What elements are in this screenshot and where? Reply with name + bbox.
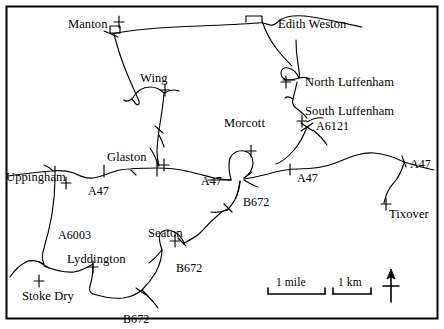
settlement-label-morcott: Morcott: [224, 117, 265, 130]
church-marker-stoke-dry: [34, 275, 44, 287]
road-label-a47-tixover: A47: [410, 158, 431, 170]
road-manton-edithweston: [112, 23, 258, 34]
road-glaston-north-tick: [159, 135, 164, 147]
settlement-label-uppingham: Uppingham: [6, 171, 66, 184]
settlement-label-edith-weston: Edith Weston: [278, 18, 346, 31]
road-south-luffenham-spur: [285, 97, 293, 99]
settlement-label-seaton: Seaton: [148, 227, 183, 240]
settlement-label-manton: Manton: [68, 18, 108, 31]
road-a6003: [43, 178, 56, 264]
settlement-label-lyddington: Lyddington: [67, 253, 126, 266]
settlement-label-tixover: Tixover: [389, 208, 429, 221]
road-seaton-b672-north: [184, 209, 228, 243]
settlement-label-stoke-dry: Stoke Dry: [22, 290, 74, 303]
road-b672-southeast: [142, 290, 158, 308]
road-a6121-south: [296, 40, 299, 78]
church-marker-morcott: [246, 145, 256, 157]
village-block-edith-weston: [246, 16, 262, 22]
map-figure: Manton Edith Weston Wing North Luffenham…: [0, 0, 444, 329]
scale-label-mile: 1 mile: [276, 277, 306, 289]
road-b672-morcott: [228, 181, 240, 209]
road-label-a47-morcott-east: A47: [297, 172, 318, 184]
road-morcott-junction-tick: [244, 172, 252, 178]
road-north-luffenham-loop: [281, 68, 299, 80]
road-morcott-loop: [229, 151, 253, 180]
road-morcott-east-spur: [244, 180, 258, 187]
road-a6121-to-morcott: [276, 127, 307, 164]
scale-bar-km: [333, 288, 371, 294]
road-label-a47-morcott-west: A47: [201, 175, 222, 187]
settlement-label-south-luffenham: South Luffenham: [305, 105, 394, 118]
road-b672-seaton: [142, 250, 162, 290]
road-tick-glaston-b: [131, 170, 136, 175]
road-label-b672-morcott: B672: [243, 196, 269, 208]
road-wing-west-spur: [124, 99, 132, 101]
road-label-b672-seaton: B672: [176, 262, 202, 274]
road-label-b672-south: B672: [123, 313, 149, 325]
road-label-a47-uppingham: A47: [88, 185, 109, 197]
road-tick-b672-south: [136, 288, 146, 295]
settlement-label-north-luffenham: North Luffenham: [305, 76, 394, 89]
settlement-label-glaston: Glaston: [107, 151, 147, 164]
road-tixover: [384, 163, 404, 203]
road-b672-southwest-spur: [211, 210, 228, 212]
settlement-label-wing: Wing: [140, 72, 168, 85]
scale-bar-mile: [268, 288, 325, 294]
road-lyddington-b672-east: [93, 290, 142, 298]
map-canvas: [0, 0, 444, 329]
church-marker-glaston: [159, 159, 169, 171]
road-label-a6121: A6121: [316, 120, 349, 132]
scale-label-km: 1 km: [338, 277, 362, 289]
road-label-a6003: A6003: [58, 229, 91, 241]
road-wing-glaston: [157, 94, 164, 166]
road-a47-morcott-east: [244, 153, 404, 179]
church-marker-wing: [160, 84, 170, 96]
junction-tick-manton: [104, 31, 118, 37]
